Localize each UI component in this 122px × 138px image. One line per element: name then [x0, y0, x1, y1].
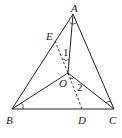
label-o: O	[59, 77, 67, 89]
label-d: D	[77, 114, 86, 126]
label-c: C	[109, 114, 117, 126]
label-b: B	[6, 114, 13, 126]
label-angle-1: 1	[63, 46, 69, 58]
label-e: E	[45, 30, 53, 42]
triangle-diagram: A E 1 O 2 B D C	[0, 0, 122, 138]
angle-arc-c	[106, 101, 111, 103]
segment-ab	[12, 14, 73, 109]
segment-ac	[73, 14, 114, 109]
label-a: A	[70, 2, 78, 14]
label-angle-2: 2	[77, 81, 83, 93]
angle-arc-a	[70, 22, 78, 24]
angle-arc-b	[21, 103, 23, 109]
angle-arc-1	[63, 59, 69, 61]
